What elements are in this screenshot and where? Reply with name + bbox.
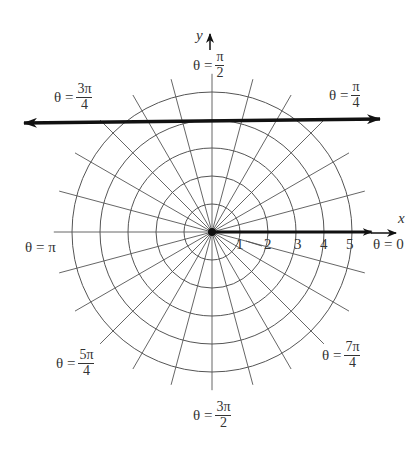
spoke-60deg <box>212 95 291 232</box>
label-theta-3pi-half: θ = 3π2 <box>193 400 231 430</box>
spoke-135deg <box>100 120 212 232</box>
spoke-300deg <box>212 232 291 369</box>
radial-tick-3: 3 <box>294 236 302 253</box>
radial-tick-4: 4 <box>320 236 328 253</box>
label-theta-zero: θ = 0 <box>373 237 404 252</box>
label-theta-pi-quarter: θ = π4 <box>329 80 360 110</box>
radial-tick-1: 1 <box>236 236 244 253</box>
label-theta-3pi-quarter: θ = 3π4 <box>54 82 92 112</box>
spoke-240deg <box>133 232 212 369</box>
x-axis-label: x <box>398 210 405 227</box>
spoke-45deg <box>212 120 324 232</box>
y-axis-label: y <box>196 27 203 44</box>
spoke-210deg <box>75 232 212 311</box>
origin-dot <box>208 228 216 236</box>
label-theta-7pi-quarter: θ = 7π4 <box>322 340 360 370</box>
spoke-120deg <box>133 95 212 232</box>
label-theta-5pi-quarter: θ = 5π4 <box>56 348 94 378</box>
spoke-225deg <box>100 232 212 344</box>
label-theta-pi: θ = π <box>25 240 56 255</box>
spoke-30deg <box>212 153 349 232</box>
radial-tick-5: 5 <box>346 236 354 253</box>
label-theta-pi-half: θ = π2 <box>193 50 224 80</box>
spoke-330deg <box>212 232 349 311</box>
spoke-150deg <box>75 153 212 232</box>
horizontal-line-y-4 <box>24 119 380 123</box>
radial-tick-2: 2 <box>264 236 272 253</box>
tick-1-leader <box>246 241 262 246</box>
